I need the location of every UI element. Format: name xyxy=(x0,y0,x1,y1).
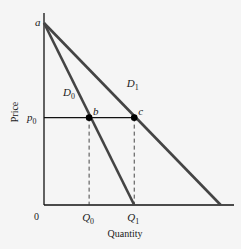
point-b xyxy=(86,114,93,121)
point-c xyxy=(131,114,138,121)
point-label-c: c xyxy=(138,105,143,117)
point-label-b: b xyxy=(93,105,99,117)
curve-label-d1-subscript: 1 xyxy=(135,83,139,92)
tick-label-q1: Q1 xyxy=(127,211,139,226)
tick-label-q0-main: Q xyxy=(82,211,90,223)
origin-label: 0 xyxy=(34,211,39,222)
demand-curve-d0 xyxy=(44,23,134,205)
tick-label-q0-subscript: 0 xyxy=(90,217,94,226)
price-label-p0: p0 xyxy=(26,111,37,126)
tick-label-q1-main: Q xyxy=(127,211,135,223)
curve-label-d0-main: D xyxy=(62,86,71,98)
chart-svg: abcD0D1p0Q0Q10QuantityPrice xyxy=(0,0,241,249)
y-axis-title: Price xyxy=(9,101,20,122)
price-label-p0-subscript: 0 xyxy=(33,117,37,126)
curve-label-d0: D0 xyxy=(62,86,75,101)
point-label-a: a xyxy=(35,16,41,28)
demand-curve-d1 xyxy=(44,23,221,205)
curve-label-d0-subscript: 0 xyxy=(71,92,75,101)
tick-label-q1-subscript: 1 xyxy=(135,217,139,226)
tick-label-q0: Q0 xyxy=(82,211,94,226)
demand-chart: abcD0D1p0Q0Q10QuantityPrice xyxy=(0,0,241,249)
curve-label-d1: D1 xyxy=(126,77,139,92)
x-axis-title: Quantity xyxy=(108,228,143,239)
curve-label-d1-main: D xyxy=(126,77,135,89)
